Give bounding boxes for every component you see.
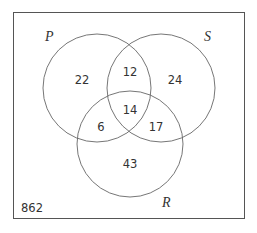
region-r-only: 43 — [123, 157, 138, 171]
region-p-only: 22 — [75, 73, 90, 87]
region-p-s: 12 — [123, 65, 138, 79]
label-r: R — [161, 195, 171, 210]
region-p-s-r: 14 — [123, 103, 138, 117]
region-s-r: 17 — [149, 120, 164, 134]
venn-diagram: P S R 22 12 24 14 6 17 43 862 — [0, 0, 257, 233]
label-s: S — [204, 29, 211, 44]
region-s-only: 24 — [168, 73, 183, 87]
label-p: P — [44, 29, 54, 44]
region-outside: 862 — [21, 201, 43, 215]
region-p-r: 6 — [97, 120, 104, 134]
